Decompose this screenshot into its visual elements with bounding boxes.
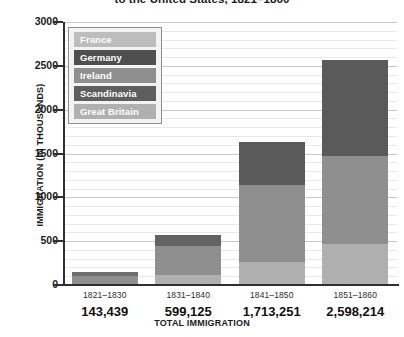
- chart-title: to the United States, 1821–1860: [0, 0, 404, 5]
- legend-label: Great Britain: [80, 106, 139, 117]
- bar-segment-great-britain: [322, 244, 388, 285]
- x-axis-line: [62, 284, 399, 286]
- y-tick-label: 1500: [18, 147, 58, 159]
- x-tick-label: 1821–1830: [57, 290, 153, 300]
- y-tick-mark: [54, 196, 63, 198]
- bar-1831-1840[interactable]: [155, 235, 221, 285]
- category-total-value: 1,713,251: [224, 304, 320, 319]
- y-tick-mark: [54, 284, 63, 286]
- legend-item-ireland[interactable]: Ireland: [74, 68, 156, 83]
- legend-item-france[interactable]: France: [74, 32, 156, 47]
- legend-label: Scandinavia: [80, 88, 137, 99]
- legend-label: France: [80, 34, 112, 45]
- y-tick-label: 1000: [18, 190, 58, 202]
- bar-1841-1850[interactable]: [239, 142, 305, 285]
- gridline-major: [63, 22, 397, 23]
- y-tick-label: 2000: [18, 103, 58, 115]
- y-axis-line: [63, 22, 65, 286]
- y-tick-mark: [54, 240, 63, 242]
- bar-segment-ireland: [322, 156, 388, 244]
- bar-segment-germany: [239, 142, 305, 185]
- category-total-value: 143,439: [57, 304, 153, 319]
- x-tick-label: 1851–1860: [307, 290, 403, 300]
- y-tick-label: 2500: [18, 59, 58, 71]
- y-tick-mark: [54, 153, 63, 155]
- y-tick-label: 0: [18, 278, 58, 290]
- x-axis-group: 1831–1840599,125: [140, 290, 236, 319]
- y-tick-mark: [54, 21, 63, 23]
- x-axis-group: 1841–18501,713,251: [224, 290, 320, 319]
- x-tick-label: 1841–1850: [224, 290, 320, 300]
- legend-item-scandinavia[interactable]: Scandinavia: [74, 86, 156, 101]
- y-tick-label: 3000: [18, 15, 58, 27]
- bar-segment-ireland: [155, 246, 221, 275]
- bar-segment-ireland: [239, 185, 305, 262]
- legend-item-great-britain[interactable]: Great Britain: [74, 104, 156, 119]
- bar-segment-germany: [322, 60, 388, 156]
- x-axis-title: TOTAL IMMIGRATION: [0, 318, 404, 328]
- y-tick-label: 500: [18, 234, 58, 246]
- category-total-value: 2,598,214: [307, 304, 403, 319]
- chart-page: to the United States, 1821–1860 IMMIGRAT…: [0, 0, 404, 337]
- chart-legend: FranceGermanyIrelandScandinaviaGreat Bri…: [68, 27, 162, 124]
- bar-segment-great-britain: [239, 262, 305, 285]
- legend-label: Germany: [80, 52, 122, 63]
- x-tick-label: 1831–1840: [140, 290, 236, 300]
- x-axis-group: 1851–18602,598,214: [307, 290, 403, 319]
- legend-item-germany[interactable]: Germany: [74, 50, 156, 65]
- bar-1851-1860[interactable]: [322, 60, 388, 285]
- category-total-value: 599,125: [140, 304, 236, 319]
- y-tick-mark: [54, 109, 63, 111]
- legend-label: Ireland: [80, 70, 112, 81]
- y-tick-mark: [54, 65, 63, 67]
- bar-segment-germany: [155, 235, 221, 247]
- x-axis-group: 1821–1830143,439: [57, 290, 153, 319]
